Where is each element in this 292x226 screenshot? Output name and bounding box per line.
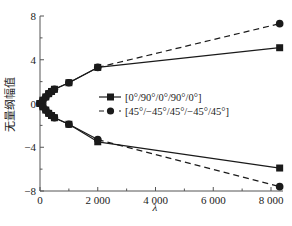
- chart-canvas: 840−4−802 0004 0006 0008 000 [0°/90°/0°/…: [0, 0, 292, 226]
- series-line-tail: [98, 24, 280, 68]
- x-axis-title: λ: [152, 201, 158, 213]
- series-line-tail: [98, 140, 280, 187]
- series-line-tail: [98, 48, 280, 68]
- legend-square-marker: [107, 94, 114, 101]
- legend: [0°/90°/0°/90°/0°][45°/−45°/45°/−45°/45°…: [99, 92, 229, 117]
- circle-marker: [94, 64, 102, 72]
- y-tick-label: −4: [24, 141, 36, 153]
- circle-marker: [94, 136, 102, 144]
- y-tick-label: −8: [24, 185, 36, 197]
- x-tick-label: 6 000: [201, 194, 226, 206]
- circle-marker: [65, 120, 73, 128]
- y-tick-label: 4: [31, 54, 37, 66]
- circle-marker: [51, 85, 59, 93]
- x-tick-label: 8 000: [259, 194, 284, 206]
- x-tick-label: 0: [37, 194, 43, 206]
- circle-marker: [65, 79, 73, 87]
- legend-item-square: [0°/90°/0°/90°/0°]: [99, 92, 201, 103]
- y-tick-label: 8: [31, 10, 37, 22]
- circle-marker: [276, 183, 284, 191]
- square-marker: [276, 44, 283, 51]
- circle-marker: [276, 20, 284, 28]
- y-tick-label: 0: [31, 98, 37, 110]
- circle-marker: [51, 114, 59, 122]
- legend-label: [45°/−45°/45°/−45°/45°]: [125, 106, 229, 117]
- legend-label: [0°/90°/0°/90°/0°]: [125, 92, 201, 103]
- y-axis-title: 无量纲幅值: [4, 77, 16, 132]
- x-tick-label: 2 000: [85, 194, 110, 206]
- legend-item-circle: [45°/−45°/45°/−45°/45°]: [99, 106, 229, 117]
- legend-circle-marker: [107, 107, 114, 114]
- series-line-tail: [98, 142, 280, 168]
- square-marker: [276, 165, 283, 172]
